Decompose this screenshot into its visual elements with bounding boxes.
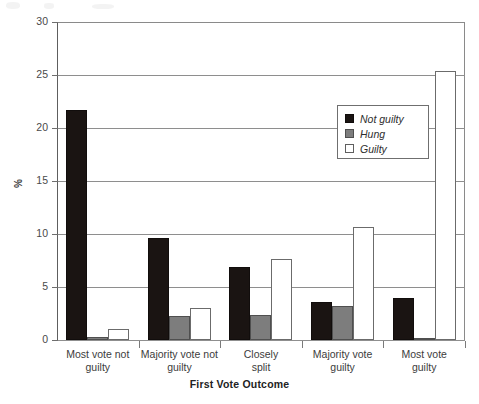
bar-hung xyxy=(250,315,271,340)
bar-not-guilty xyxy=(393,298,414,340)
bar-hung xyxy=(169,316,190,340)
y-tick-mark xyxy=(52,340,58,341)
y-tick-label: 10 xyxy=(22,228,48,239)
bar-group xyxy=(220,22,302,340)
bar-hung xyxy=(87,337,108,340)
scan-artifact xyxy=(44,3,54,9)
y-tick-label: 20 xyxy=(22,122,48,133)
bar-group xyxy=(139,22,221,340)
bar-not-guilty xyxy=(311,302,332,340)
x-category-label-line: Most vote xyxy=(377,348,471,361)
legend-swatch-not-guilty xyxy=(345,114,354,123)
plot-bottom-border xyxy=(57,340,465,341)
legend-row: Hung xyxy=(345,126,428,141)
legend-row: Not guilty xyxy=(345,111,428,126)
y-tick-mark xyxy=(52,22,58,23)
y-tick-label: 15 xyxy=(22,175,48,186)
bar-guilty xyxy=(271,259,292,340)
bar-hung xyxy=(414,338,435,340)
bar-chart-figure: % 051015202530 Most vote notguiltyMajori… xyxy=(0,0,479,404)
x-tick-mark xyxy=(465,341,466,348)
x-category-label: Closelysplit xyxy=(214,348,308,373)
legend-swatch-guilty xyxy=(345,144,354,153)
bar-guilty xyxy=(190,308,211,340)
bar-guilty xyxy=(353,227,374,340)
legend-label: Guilty xyxy=(360,143,387,155)
x-axis-title: First Vote Outcome xyxy=(0,378,479,390)
x-tick-mark xyxy=(383,341,384,348)
legend-label: Not guilty xyxy=(360,113,404,125)
y-tick-mark xyxy=(52,181,58,182)
x-tick-mark xyxy=(139,341,140,348)
bar-guilty xyxy=(108,329,129,340)
bar-not-guilty xyxy=(66,110,87,340)
x-category-label: Majority vote notguilty xyxy=(133,348,227,373)
y-tick-label: 5 xyxy=(22,281,48,292)
legend-label: Hung xyxy=(360,128,385,140)
bar-group xyxy=(302,22,384,340)
y-tick-mark xyxy=(52,234,58,235)
legend-swatch-hung xyxy=(345,129,354,138)
x-category-label-line: guilty xyxy=(296,361,390,374)
y-tick-label: 0 xyxy=(22,334,48,345)
y-tick-label: 30 xyxy=(22,16,48,27)
scan-artifact xyxy=(6,2,20,9)
x-category-label-line: Closely xyxy=(214,348,308,361)
x-category-label-line: Majority vote xyxy=(296,348,390,361)
x-category-label: Most vote notguilty xyxy=(51,348,145,373)
x-category-label: Majority voteguilty xyxy=(296,348,390,373)
bar-group xyxy=(57,22,139,340)
bar-group xyxy=(383,22,465,340)
bar-guilty xyxy=(435,71,456,340)
x-category-label-line: Majority vote not xyxy=(133,348,227,361)
plot-area xyxy=(57,22,465,340)
legend-row: Guilty xyxy=(345,141,428,156)
bar-hung xyxy=(332,306,353,340)
x-category-label-line: guilty xyxy=(377,361,471,374)
x-tick-mark xyxy=(302,341,303,348)
x-category-label-line: Most vote not xyxy=(51,348,145,361)
x-category-label-line: guilty xyxy=(51,361,145,374)
bar-not-guilty xyxy=(148,238,169,340)
x-category-label-line: split xyxy=(214,361,308,374)
scan-artifact xyxy=(92,4,114,9)
bar-not-guilty xyxy=(229,267,250,340)
x-category-label-line: guilty xyxy=(133,361,227,374)
y-tick-mark xyxy=(52,75,58,76)
x-category-label: Most voteguilty xyxy=(377,348,471,373)
y-tick-label: 25 xyxy=(22,69,48,80)
y-tick-mark xyxy=(52,287,58,288)
y-tick-mark xyxy=(52,128,58,129)
chart-legend: Not guiltyHungGuilty xyxy=(337,105,429,159)
x-tick-mark xyxy=(220,341,221,348)
